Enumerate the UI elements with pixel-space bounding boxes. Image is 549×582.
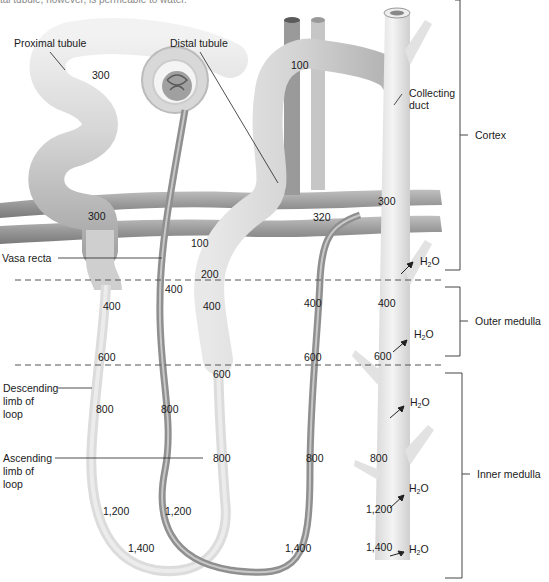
value-proximal-300: 300 — [92, 69, 110, 81]
value-vasa-outer-800: 800 — [306, 452, 324, 464]
value-vasa-outer-400: 400 — [304, 297, 322, 309]
value-ascending-400: 400 — [203, 300, 221, 312]
value-descending-600: 600 — [98, 351, 116, 363]
value-duct-300: 300 — [378, 195, 396, 207]
nephron-diagram: tal tubule, however, is permeable to wat… — [0, 0, 549, 582]
value-ascending-800: 800 — [213, 452, 231, 464]
value-loop-tip-1400: 1,400 — [128, 542, 154, 554]
zone-inner-medulla: Inner medulla — [477, 468, 541, 480]
value-vasa-400: 400 — [165, 283, 183, 295]
value-descending-1200: 1,200 — [103, 505, 129, 517]
label-collecting-duct-line2: duct — [409, 99, 429, 111]
label-descending-line3: loop — [3, 408, 23, 420]
nephron-illustration — [0, 0, 549, 582]
value-duct-1200: 1,200 — [366, 503, 392, 515]
value-duct-1400: 1,400 — [366, 541, 392, 553]
value-ascending-100: 100 — [191, 237, 209, 249]
label-collecting-duct-line1: Collecting — [409, 87, 455, 99]
value-proximal-300-lower: 300 — [88, 210, 106, 222]
label-distal-tubule: Distal tubule — [170, 37, 228, 49]
value-vasa-outer-600: 600 — [304, 351, 322, 363]
label-ascending-line3: loop — [3, 478, 23, 490]
value-duct-600: 600 — [374, 350, 392, 362]
value-vasa-800: 800 — [161, 403, 179, 415]
glomerulus — [142, 47, 208, 113]
zone-outer-medulla: Outer medulla — [475, 315, 541, 327]
value-duct-800: 800 — [370, 452, 388, 464]
value-ascending-200: 200 — [201, 268, 219, 280]
water-label-3: H2O — [410, 396, 430, 412]
value-ascending-1200: 1,200 — [165, 505, 191, 517]
water-label-2: H2O — [414, 328, 434, 344]
label-proximal-tubule: Proximal tubule — [14, 37, 86, 49]
value-duct-400: 400 — [378, 297, 396, 309]
label-ascending-line2: limb of — [3, 465, 34, 477]
water-label-4: H2O — [409, 482, 429, 498]
label-descending-line1: Descending — [3, 382, 58, 394]
zone-cortex: Cortex — [475, 129, 506, 141]
value-ascending-600: 600 — [213, 368, 231, 380]
water-label-5: H2O — [409, 543, 429, 559]
value-distal-100: 100 — [291, 59, 309, 71]
label-descending-line2: limb of — [3, 395, 34, 407]
water-label-1: H2O — [420, 255, 440, 271]
label-vasa-recta: Vasa recta — [2, 252, 51, 264]
value-descending-800: 800 — [96, 403, 114, 415]
value-vasa-320: 320 — [313, 211, 331, 223]
label-ascending-line1: Ascending — [3, 452, 52, 464]
value-vasa-bottom-1400: 1,400 — [285, 542, 311, 554]
value-descending-400: 400 — [103, 300, 121, 312]
